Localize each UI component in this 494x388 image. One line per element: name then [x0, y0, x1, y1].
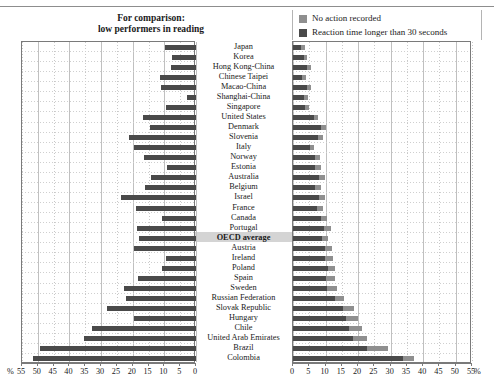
tick-right-0: [292, 363, 293, 366]
row-separator: [293, 122, 470, 123]
tick-right-45: [438, 363, 439, 366]
segment-no-action: [346, 316, 358, 321]
segment-no-action: [326, 276, 334, 281]
segment-no-action: [353, 336, 367, 341]
row-separator: [293, 303, 470, 304]
bar-left-russian-federation: [126, 296, 196, 301]
category-label-ireland: Ireland: [195, 253, 292, 262]
bar-right-chinese-taipei: [293, 75, 306, 80]
segment-no-action: [335, 296, 345, 301]
segment-no-action: [307, 65, 311, 70]
row-separator: [22, 313, 194, 314]
tick-left-40: [68, 363, 69, 366]
category-label-singapore: Singapore: [195, 102, 292, 111]
category-label-oecd-average: OECD average: [195, 233, 292, 242]
segment-no-action: [343, 306, 354, 311]
bar-left-united-states: [143, 115, 196, 120]
bar-left-poland: [162, 266, 196, 271]
category-label-hungary: Hungary: [195, 313, 292, 322]
segment-reaction-time: [293, 155, 315, 160]
bar-right-hungary: [293, 316, 358, 321]
bar-right-france: [293, 206, 323, 211]
category-label-denmark: Denmark: [195, 122, 292, 131]
segment-no-action: [325, 246, 332, 251]
segment-reaction-time: [293, 55, 304, 60]
row-separator: [22, 252, 194, 253]
bar-left-chile: [92, 326, 196, 331]
segment-reaction-time: [293, 65, 307, 70]
bar-right-singapore: [293, 105, 309, 110]
bar-right-austria: [293, 246, 332, 251]
category-label-slovak-republic: Slovak Republic: [195, 303, 292, 312]
bar-left-chinese-taipei: [160, 75, 196, 80]
segment-no-action: [314, 115, 319, 120]
segment-reaction-time: [293, 256, 325, 261]
bar-left-oecd-average: [139, 236, 196, 241]
bar-left-ireland: [166, 256, 196, 261]
bar-left-belgium: [145, 185, 196, 190]
legend-item-reaction-time: Reaction time longer than 30 seconds: [299, 26, 481, 39]
tick-right-50: [455, 363, 456, 366]
segment-reaction-time: [293, 246, 325, 251]
row-separator: [293, 333, 470, 334]
segment-reaction-time: [293, 135, 318, 140]
row-separator: [293, 222, 470, 223]
segment-no-action: [319, 195, 325, 200]
segment-no-action: [301, 45, 304, 50]
gridline-right-55: [472, 42, 473, 362]
row-separator: [22, 293, 194, 294]
segment-no-action: [327, 286, 336, 291]
segment-no-action: [318, 135, 323, 140]
bar-left-slovenia: [129, 135, 196, 140]
segment-no-action: [349, 326, 362, 331]
category-label-portugal: Portugal: [195, 223, 292, 232]
segment-reaction-time: [293, 85, 307, 90]
segment-no-action: [315, 185, 321, 190]
segment-reaction-time: [293, 145, 310, 150]
row-separator: [293, 142, 470, 143]
bar-right-poland: [293, 266, 335, 271]
bar-right-israel: [293, 195, 325, 200]
segment-reaction-time: [293, 206, 317, 211]
row-separator: [22, 192, 194, 193]
bar-right-portugal: [293, 226, 331, 231]
bar-right-slovenia: [293, 135, 323, 140]
segment-no-action: [321, 125, 326, 130]
category-label-italy: Italy: [195, 142, 292, 151]
row-separator: [22, 162, 194, 163]
tick-left-10: [163, 363, 164, 366]
bar-left-brazil: [40, 346, 196, 351]
row-separator: [293, 172, 470, 173]
bar-left-singapore: [166, 105, 196, 110]
category-label-macao-china: Macao-China: [195, 82, 292, 91]
segment-reaction-time: [293, 266, 328, 271]
category-label-australia: Australia: [195, 172, 292, 181]
bar-right-oecd-average: [293, 236, 328, 241]
row-separator: [22, 51, 194, 52]
bar-left-united-arab-emirates: [84, 336, 196, 341]
segment-reaction-time: [293, 195, 319, 200]
segment-reaction-time: [293, 45, 301, 50]
category-label-column: JapanKoreaHong Kong-ChinaChinese TaipeiM…: [195, 41, 292, 363]
bar-right-spain: [293, 276, 335, 281]
left-panel-low-performers: [21, 41, 195, 363]
category-label-france: France: [195, 203, 292, 212]
row-separator: [293, 252, 470, 253]
category-label-poland: Poland: [195, 263, 292, 272]
row-separator: [22, 262, 194, 263]
bar-left-slovak-republic: [107, 306, 196, 311]
tick-right-30: [390, 363, 391, 366]
tick-right-15: [341, 363, 342, 366]
row-separator: [293, 232, 470, 233]
row-separator: [22, 333, 194, 334]
legend-label-reaction-time: Reaction time longer than 30 seconds: [312, 28, 447, 37]
row-separator: [22, 81, 194, 82]
category-label-hong-kong-china: Hong Kong-China: [195, 62, 292, 71]
segment-reaction-time: [293, 185, 315, 190]
segment-no-action: [322, 236, 329, 241]
tick-right-25: [373, 363, 374, 366]
bar-left-italy: [134, 145, 196, 150]
legend-swatch-reaction-time: [299, 29, 307, 37]
row-separator: [293, 343, 470, 344]
row-separator: [293, 81, 470, 82]
